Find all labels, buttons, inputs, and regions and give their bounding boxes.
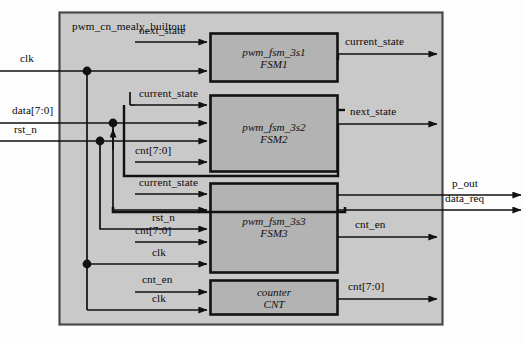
input-label-data: data[7:0] [12,105,53,116]
output-label-next-state-fsm2: next_state [350,106,396,117]
signal-label-cnt-fsm3: cnt[7:0] [135,225,171,236]
signal-label-clk-cnt: clk [152,293,166,304]
block-fsm1-instance: FSM1 [210,58,338,71]
signal-label-next-state-fsm1: next_state [139,25,185,36]
output-label-cnt-en-fsm3: cnt_en [355,219,385,230]
junction-dot-rstn [96,137,105,146]
signal-label-current-state-fsm2: current_state [139,88,198,99]
junction-dot-data [109,119,118,128]
input-label-clk: clk [20,53,34,64]
block-cnt-instance: CNT [210,298,338,311]
junction-dot-clk-top [83,67,92,76]
input-label-rst-n: rst_n [14,124,37,135]
signal-label-cnt-fsm2: cnt[7:0] [135,145,171,156]
block-fsm2-module: pwm_fsm_3s2 [210,121,338,134]
signal-label-rst-n-fsm3: rst_n [152,212,175,223]
output-label-data-req: data_req [445,193,484,204]
junction-dot-clk-fsm3 [83,260,92,269]
signal-label-current-state-fsm3: current_state [139,177,198,188]
output-label-p-out: p_out [452,178,478,189]
block-fsm3-instance: FSM3 [210,227,338,240]
block-fsm1-module: pwm_fsm_3s1 [210,46,338,59]
output-label-current-state-fsm1: current_state [345,36,404,47]
block-diagram-canvas: pwm_cn_mealy_builtout pwm_fsm_3s1 FSM1 p… [0,0,524,343]
block-fsm3-module: pwm_fsm_3s3 [210,215,338,228]
signal-label-cnt-en-cnt: cnt_en [142,274,172,285]
block-cnt-module: counter [210,286,338,299]
output-label-cnt-value: cnt[7:0] [348,281,384,292]
signal-label-clk-fsm3: clk [152,247,166,258]
block-fsm2-instance: FSM2 [210,133,338,146]
